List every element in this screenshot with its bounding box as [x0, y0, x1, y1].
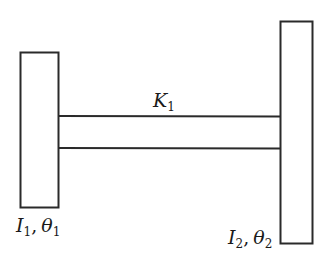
shaft-bottom-edge — [59, 148, 280, 149]
shaft — [59, 116, 280, 149]
rotor-left — [21, 53, 59, 208]
shaft-stiffness-label: K1 — [152, 89, 175, 114]
torsional-system-diagram: K1 I1,θ1 I2,θ2 — [0, 0, 318, 266]
rotor-left-label: I1,θ1 — [15, 214, 60, 239]
rotor-right-label: I2,θ2 — [227, 226, 272, 251]
rotor-right — [281, 22, 313, 244]
shaft-top-edge — [59, 116, 280, 117]
